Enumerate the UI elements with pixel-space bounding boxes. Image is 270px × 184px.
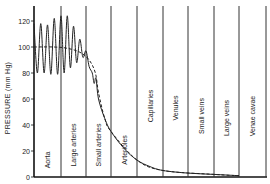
region-label: Small arteries — [95, 123, 102, 166]
y-tick-label: 0 — [26, 174, 30, 181]
region-label: Capillaries — [147, 89, 155, 122]
pressure-chart: 020406080100120 PRESSURE (mm Hg) AortaLa… — [0, 0, 270, 184]
region-label: Venules — [172, 95, 179, 120]
region-label: Large veins — [223, 99, 231, 136]
region-labels: AortaLarge arteriesSmall arteriesArterio… — [44, 89, 256, 168]
region-dividers — [61, 6, 266, 177]
region-label: Venae cavae — [249, 96, 256, 137]
y-tick-label: 60 — [22, 96, 30, 103]
region-label: Small veins — [198, 98, 205, 134]
y-tick-label: 20 — [22, 148, 30, 155]
region-label: Large arteries — [70, 123, 78, 167]
y-tick-label: 40 — [22, 122, 30, 129]
y-tick-label: 100 — [18, 44, 30, 51]
region-label: Aorta — [44, 152, 51, 169]
y-tick-label: 80 — [22, 70, 30, 77]
region-label: Arterioles — [121, 135, 128, 165]
y-axis-label: PRESSURE (mm Hg) — [4, 62, 12, 134]
y-tick-label: 120 — [18, 18, 30, 25]
y-ticks: 020406080100120 — [18, 18, 34, 181]
